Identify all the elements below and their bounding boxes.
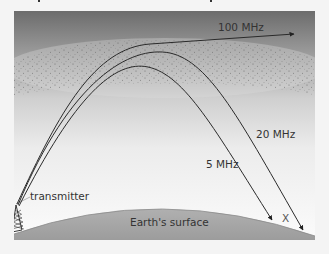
ionosphere-diagram: 100 MHz 20 MHz 5 MHz transmitter Earth's…: [0, 0, 329, 254]
label-20mhz: 20 MHz: [256, 128, 296, 140]
label-5mhz: 5 MHz: [206, 158, 239, 170]
label-earth-surface: Earth's surface: [130, 216, 209, 228]
ionosphere-layer: [5, 38, 325, 98]
label-distance-x: X: [282, 212, 289, 224]
label-transmitter: transmitter: [30, 190, 90, 202]
clipped-caption-remnant: [38, 0, 212, 2]
label-100mhz: 100 MHz: [218, 21, 264, 33]
